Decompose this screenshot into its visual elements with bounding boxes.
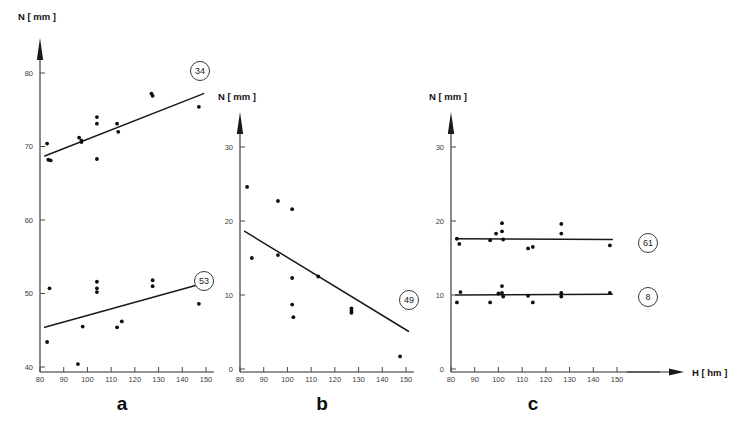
x-tick-label-b-110: 110 (305, 375, 317, 384)
y-axis-title-c: N [ mm ] (429, 91, 467, 102)
data-point (276, 199, 280, 203)
data-point (526, 246, 530, 250)
data-point (276, 253, 280, 257)
data-point (49, 159, 53, 163)
data-point (559, 232, 563, 236)
data-point (197, 302, 201, 306)
y-tick-label-a-70: 70 (25, 142, 33, 151)
data-point (120, 320, 124, 324)
y-tick-label-b-20: 20 (225, 217, 233, 226)
data-point (116, 130, 120, 134)
data-point (500, 284, 504, 288)
series-badge-label-53: 53 (199, 276, 209, 286)
data-point (488, 301, 492, 305)
regression-line-8 (456, 294, 613, 295)
data-point (151, 94, 155, 98)
x-tick-label-c-120: 120 (540, 375, 553, 384)
data-point (80, 140, 84, 144)
x-tick-label-c-100: 100 (492, 375, 505, 384)
regression-line-49 (245, 231, 409, 331)
y-tick-label-a-60: 60 (25, 216, 33, 225)
data-point (95, 115, 99, 119)
x-tick-label-a-100: 100 (81, 375, 94, 384)
data-point (316, 275, 320, 279)
x-tick-label-a-150: 150 (200, 375, 213, 384)
data-point (151, 278, 155, 282)
y-tick-label-c-10: 10 (436, 291, 444, 300)
series-badge-label-49: 49 (404, 295, 414, 305)
data-point (77, 136, 81, 140)
data-point (290, 207, 294, 211)
x-tick-label-b-130: 130 (352, 375, 365, 384)
data-point (608, 291, 612, 295)
data-point (250, 256, 254, 260)
y-tick-label-b-10: 10 (225, 291, 233, 300)
figure-canvas: 40506070808090100110120130140150N [ mm ]… (0, 0, 730, 430)
data-point (95, 286, 99, 290)
data-point (350, 311, 354, 315)
data-point (457, 242, 461, 246)
y-axis-title-a: N [ mm ] (18, 11, 56, 22)
x-tick-label-b-140: 140 (376, 375, 389, 384)
data-point (290, 276, 294, 280)
y-tick-label-a-40: 40 (25, 363, 33, 372)
panel-a: 40506070808090100110120130140150N [ mm ]… (18, 11, 214, 414)
data-point (494, 232, 498, 236)
data-point (48, 286, 52, 290)
panel-letter-a: a (117, 393, 128, 414)
x-tick-label-a-80: 80 (36, 375, 44, 384)
x-tick-label-b-100: 100 (281, 375, 294, 384)
data-point (526, 294, 530, 298)
data-point (115, 122, 119, 126)
x-tick-label-a-110: 110 (105, 375, 117, 384)
panel-letter-b: b (316, 393, 328, 414)
x-tick-label-b-120: 120 (329, 375, 342, 384)
x-tick-label-a-130: 130 (152, 375, 165, 384)
data-point (95, 157, 99, 161)
x-axis-title-c: H [ hm ] (692, 367, 727, 378)
y-tick-label-b-30: 30 (225, 143, 233, 152)
data-point (501, 238, 505, 242)
panel-b: 01020308090100110120130140150N [ mm ]49b (218, 91, 419, 414)
x-tick-label-b-90: 90 (260, 375, 268, 384)
data-point (459, 290, 463, 294)
panel-letter-c: c (528, 393, 539, 414)
x-tick-label-c-150: 150 (611, 375, 624, 384)
series-badge-label-61: 61 (643, 238, 653, 248)
data-point (497, 292, 501, 296)
data-point (608, 244, 612, 248)
data-point (197, 105, 201, 109)
y-tick-label-b-0: 0 (229, 365, 233, 374)
y-axis-title-b: N [ mm ] (218, 91, 256, 102)
data-point (488, 238, 492, 242)
y-axis-arrow-b (237, 112, 243, 134)
panel-c: 01020308090100110120130140150N [ mm ]H [… (429, 91, 727, 414)
data-point (559, 291, 563, 295)
data-point (95, 122, 99, 126)
data-point (45, 340, 49, 344)
data-point (245, 185, 249, 189)
y-tick-label-c-20: 20 (436, 217, 444, 226)
data-point (500, 291, 504, 295)
data-point (115, 325, 119, 329)
x-axis-arrow-c (669, 369, 684, 376)
scatter-plot-figure: 40506070808090100110120130140150N [ mm ]… (0, 0, 730, 430)
y-axis-arrow-c (448, 112, 454, 134)
data-point (559, 295, 563, 299)
data-point (95, 290, 99, 294)
x-tick-label-a-90: 90 (60, 375, 68, 384)
data-point (501, 295, 505, 299)
data-point (500, 221, 504, 225)
data-point (45, 142, 49, 146)
x-tick-label-c-80: 80 (447, 375, 455, 384)
y-tick-label-a-50: 50 (25, 289, 33, 298)
x-tick-label-b-150: 150 (400, 375, 413, 384)
x-tick-label-c-90: 90 (471, 375, 479, 384)
data-point (500, 229, 504, 233)
data-point (151, 284, 155, 288)
data-point (81, 325, 85, 329)
x-tick-label-c-130: 130 (563, 375, 576, 384)
regression-line-34 (45, 94, 204, 156)
data-point (398, 355, 402, 359)
data-point (291, 315, 295, 319)
